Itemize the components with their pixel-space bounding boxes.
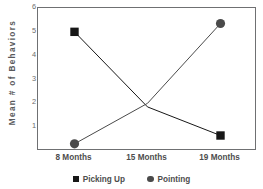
x-axis-tick-label: 19 Months <box>199 153 240 162</box>
y-axis-tick-labels: 654321 <box>22 0 36 152</box>
series-line <box>75 23 221 143</box>
plot-area <box>37 7 256 150</box>
y-axis-tick-label: 6 <box>24 3 36 11</box>
y-axis-tick-label: 2 <box>24 98 36 106</box>
legend-item-label: Pointing <box>158 175 191 184</box>
circle-marker-icon <box>70 139 79 148</box>
circle-marker-icon <box>147 176 154 183</box>
square-marker-icon <box>73 176 79 182</box>
y-axis-tick-label: 4 <box>24 51 36 59</box>
x-axis-tick-label: 15 Months <box>126 153 167 162</box>
legend-item: Pointing <box>147 175 190 184</box>
y-axis-tick-label: 3 <box>24 75 36 83</box>
x-axis-tick-label: 8 Months <box>56 153 92 162</box>
y-axis-title: Mean # of Behaviors <box>8 8 17 138</box>
legend-item: Picking Up <box>73 175 125 184</box>
chart-legend: Picking UpPointing <box>0 171 263 187</box>
y-axis-title-container: Mean # of Behaviors <box>0 0 22 152</box>
legend-item-label: Picking Up <box>83 175 125 184</box>
chart-figure: Mean # of Behaviors 654321 8 Months15 Mo… <box>0 0 263 189</box>
y-axis-tick-label: 5 <box>24 27 36 35</box>
circle-marker-icon <box>216 19 225 28</box>
plot-series-svg <box>38 8 257 151</box>
square-marker-icon <box>70 28 78 36</box>
x-axis-tick-labels: 8 Months15 Months19 Months <box>37 153 256 167</box>
square-marker-icon <box>216 131 224 139</box>
y-axis-tick-label: 1 <box>24 122 36 130</box>
